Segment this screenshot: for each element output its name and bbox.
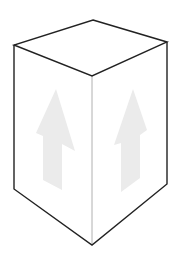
box-diagram	[0, 0, 180, 265]
